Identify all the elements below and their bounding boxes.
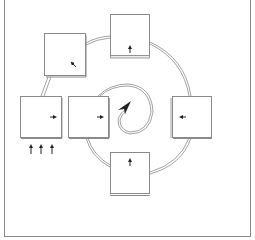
panel-right xyxy=(171,97,212,139)
cycle-diagram xyxy=(0,0,255,240)
panel-left-inner xyxy=(69,97,110,139)
panel-top xyxy=(111,15,150,59)
panel-bottom xyxy=(110,153,150,196)
panel-top-left xyxy=(45,34,87,78)
panel-left-outer xyxy=(21,97,63,139)
input-arrows xyxy=(31,146,52,154)
spiral-arrow-icon xyxy=(118,101,131,114)
